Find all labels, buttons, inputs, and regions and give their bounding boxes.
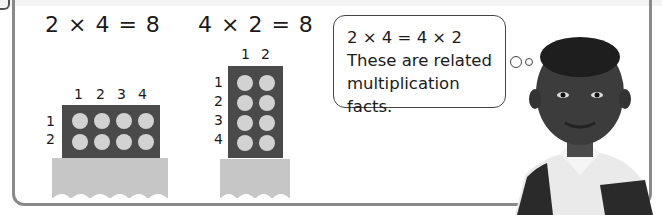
bubble-text-line: multiplication facts. — [347, 72, 505, 118]
counter — [259, 115, 275, 131]
counter — [259, 75, 275, 91]
counter — [259, 135, 275, 151]
bubble-text-line: These are related — [347, 49, 505, 72]
col-label: 2 — [96, 86, 105, 102]
counter — [72, 134, 88, 150]
counter — [237, 115, 253, 131]
counter-grid — [228, 66, 283, 158]
row-label: 1 — [214, 74, 223, 90]
array-base — [220, 159, 290, 198]
bubble-equation: 2 × 4 = 4 × 2 — [347, 26, 505, 49]
equation-2x4: 2 × 4 = 8 — [45, 12, 161, 37]
counter — [94, 113, 110, 129]
col-label: 2 — [261, 46, 270, 62]
counter — [116, 113, 132, 129]
counter — [138, 113, 154, 129]
array-base — [52, 158, 168, 198]
col-label: 1 — [74, 86, 83, 102]
row-label: 4 — [214, 131, 223, 147]
row-label: 1 — [46, 113, 55, 129]
page-corner — [0, 0, 10, 10]
counter — [72, 113, 88, 129]
thought-bubble: 2 × 4 = 4 × 2 These are related multipli… — [333, 15, 506, 108]
counter — [259, 95, 275, 111]
boy-photo — [505, 35, 655, 215]
counter-grid — [62, 105, 160, 158]
row-label: 2 — [214, 93, 223, 109]
row-label: 2 — [46, 131, 55, 147]
counter — [237, 135, 253, 151]
row-label: 3 — [214, 112, 223, 128]
counter — [237, 95, 253, 111]
col-label: 4 — [138, 86, 147, 102]
counter — [237, 75, 253, 91]
col-label: 3 — [117, 86, 126, 102]
col-label: 1 — [241, 46, 250, 62]
counter — [116, 134, 132, 150]
equation-4x2: 4 × 2 = 8 — [198, 12, 314, 37]
counter — [138, 134, 154, 150]
counter — [94, 134, 110, 150]
